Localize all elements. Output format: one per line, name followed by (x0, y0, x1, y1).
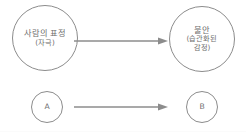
node-stimulus-label-sub: (자극) (35, 39, 55, 47)
node-anxiety: 불안 (습관화된 감정) (169, 6, 235, 72)
node-a: A (31, 91, 63, 123)
node-b: B (186, 91, 218, 123)
diagram-canvas: 사람의 표정 (자극) 불안 (습관화된 감정) A B (0, 0, 246, 134)
arrow-stimulus-to-anxiety-icon (74, 36, 168, 46)
bottom-divider (0, 131, 246, 132)
node-stimulus: 사람의 표정 (자극) (12, 5, 78, 71)
node-anxiety-label-sub2: 감정) (194, 44, 211, 52)
arrow-a-to-b (74, 102, 168, 112)
arrow-stimulus-to-anxiety (74, 36, 168, 46)
node-b-label: B (199, 103, 204, 112)
arrow-a-to-b-icon (74, 102, 168, 112)
node-a-label: A (44, 103, 49, 112)
